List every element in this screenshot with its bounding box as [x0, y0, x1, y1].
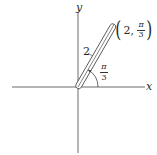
point-theta: π 3 — [137, 21, 145, 40]
point-theta-numerator: π — [138, 21, 143, 29]
angle-label-numerator: π — [101, 63, 106, 71]
polar-coordinate-diagram: y x 2 π 3 ( 2, π 3 ) — [0, 0, 157, 155]
point-label: ( 2, π 3 ) — [114, 18, 154, 42]
x-axis-label: x — [146, 81, 152, 92]
left-paren: ( — [115, 19, 121, 41]
y-axis-label: y — [76, 2, 82, 13]
angle-label: π 3 — [100, 63, 108, 82]
ray-capsule — [75, 23, 117, 90]
point-theta-denominator: 3 — [139, 31, 144, 39]
right-paren: ) — [146, 19, 152, 41]
ray-length-label: 2 — [83, 46, 90, 57]
angle-label-denominator: 3 — [101, 74, 106, 82]
point-r-value: 2, — [124, 24, 135, 37]
